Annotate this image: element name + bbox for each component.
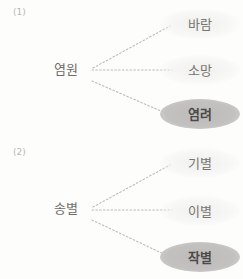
semantic-network-diagram: (1) 염원 바람 소망 염려 (2) 송별 기별: [0, 0, 243, 279]
diagram-group-2: (2) 송별 기별 이별 작별: [0, 140, 243, 279]
connector-line-upper: [93, 165, 170, 207]
target-term-3-highlighted: 작별: [160, 242, 240, 272]
target-term-label: 바람: [188, 18, 212, 31]
center-term: 송별: [40, 202, 92, 215]
connector-line-lower: [92, 81, 170, 115]
target-term-label: 소망: [188, 64, 212, 77]
target-term-label: 염려: [188, 108, 212, 121]
target-term-2: 이별: [160, 196, 240, 226]
connector-line-upper: [93, 26, 170, 68]
center-term-label: 송별: [54, 201, 78, 216]
target-term-label: 이별: [188, 205, 212, 218]
target-term-1: 바람: [160, 9, 240, 39]
target-term-1: 기별: [160, 148, 240, 178]
center-term: 염원: [40, 63, 92, 76]
diagram-group-1: (1) 염원 바람 소망 염려: [0, 0, 243, 139]
center-term-label: 염원: [54, 62, 78, 77]
connector-line-lower: [92, 220, 172, 258]
target-term-3-highlighted: 염려: [160, 99, 240, 129]
target-term-label: 기별: [188, 157, 212, 170]
target-term-2: 소망: [160, 55, 240, 85]
target-term-label: 작별: [188, 251, 212, 264]
